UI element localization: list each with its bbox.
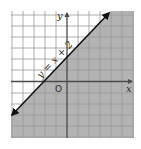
origin-label: O xyxy=(55,84,62,94)
x-axis-label: x xyxy=(126,83,132,94)
coordinate-graph: y = x + 2 y x O xyxy=(0,0,141,149)
shaded-region xyxy=(11,11,134,138)
y-axis-label: y xyxy=(56,10,63,21)
